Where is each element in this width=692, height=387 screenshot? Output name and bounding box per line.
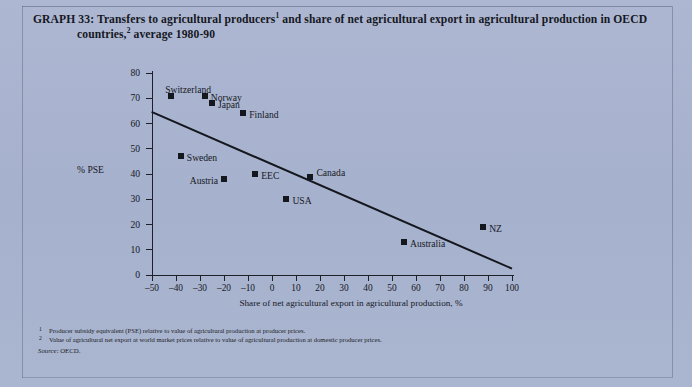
footnote-2-marker: 2 bbox=[39, 334, 42, 343]
source-label: Source bbox=[38, 347, 57, 354]
footnotes: 1 Producer subsidy equivalent (PSE) rela… bbox=[38, 326, 638, 355]
x-tick bbox=[152, 275, 153, 281]
x-tick bbox=[368, 275, 369, 281]
y-tick-label: 10 bbox=[110, 244, 140, 255]
source-value: : OECD. bbox=[57, 347, 81, 354]
x-tick bbox=[392, 275, 393, 281]
data-point bbox=[178, 153, 184, 159]
x-tick bbox=[416, 275, 417, 281]
data-point-label: Japan bbox=[218, 99, 240, 110]
data-point bbox=[240, 110, 246, 116]
data-point bbox=[209, 100, 215, 106]
data-point bbox=[283, 196, 289, 202]
y-tick-label-text: 0 bbox=[112, 269, 140, 280]
data-point-label: Australia bbox=[410, 238, 445, 249]
data-point bbox=[221, 176, 227, 182]
footnote-1-text: Producer subsidy equivalent (PSE) relati… bbox=[49, 327, 305, 334]
x-tick bbox=[440, 275, 441, 281]
graph-page: GRAPH 33: Transfers to agricultural prod… bbox=[0, 0, 692, 387]
footnote-1-marker: 1 bbox=[39, 325, 42, 334]
data-point-label: EEC bbox=[261, 170, 279, 181]
data-point-label: NZ bbox=[489, 223, 502, 234]
y-tick-label: 20 bbox=[110, 219, 140, 230]
data-point bbox=[202, 93, 208, 99]
y-tick-label: 0 bbox=[110, 269, 140, 280]
y-tick-label-text: 70 bbox=[112, 92, 140, 103]
x-axis-title: Share of net agricultural export in agri… bbox=[0, 298, 692, 308]
y-tick-label-text: 20 bbox=[112, 219, 140, 230]
scatter-chart: 01020304050607080 –50–40–30–20–100102030… bbox=[0, 0, 692, 320]
y-tick-label-text: 80 bbox=[112, 67, 140, 78]
x-tick bbox=[512, 275, 513, 281]
y-tick bbox=[146, 148, 153, 149]
x-tick bbox=[488, 275, 489, 281]
y-tick bbox=[146, 249, 153, 250]
data-point-label: Austria bbox=[0, 175, 218, 186]
x-tick bbox=[224, 275, 225, 281]
x-axis-line bbox=[150, 275, 514, 276]
trendline bbox=[151, 111, 512, 269]
y-tick bbox=[146, 98, 153, 99]
data-point bbox=[252, 171, 258, 177]
data-point-label: Sweden bbox=[187, 152, 217, 163]
x-axis-title-text: Share of net agricultural export in agri… bbox=[229, 298, 462, 308]
y-tick-label: 70 bbox=[110, 92, 140, 103]
data-point bbox=[480, 224, 486, 230]
x-tick bbox=[248, 275, 249, 281]
y-tick-label-text: 10 bbox=[112, 244, 140, 255]
y-tick-label-text: 30 bbox=[112, 193, 140, 204]
x-tick bbox=[272, 275, 273, 281]
footnote-2-text: Value of agricultural net export at worl… bbox=[49, 336, 382, 343]
y-tick-label-text: 50 bbox=[112, 143, 140, 154]
x-tick bbox=[344, 275, 345, 281]
x-tick-label: 100 bbox=[495, 283, 529, 293]
x-tick bbox=[464, 275, 465, 281]
y-axis-title: % PSE bbox=[77, 164, 104, 175]
data-point-label: Finland bbox=[249, 109, 278, 120]
x-tick bbox=[296, 275, 297, 281]
page-border-bottom bbox=[22, 377, 672, 378]
y-tick bbox=[146, 199, 153, 200]
y-tick-label: 30 bbox=[110, 193, 140, 204]
footnote-1: 1 Producer subsidy equivalent (PSE) rela… bbox=[38, 326, 638, 335]
data-point-label: Canada bbox=[316, 167, 345, 178]
y-tick-label-text: 60 bbox=[112, 118, 140, 129]
data-point bbox=[401, 239, 407, 245]
footnote-2: 2 Value of agricultural net export at wo… bbox=[38, 335, 638, 344]
source-line: Source: OECD. bbox=[38, 346, 638, 355]
data-point-label: USA bbox=[292, 195, 311, 206]
x-tick bbox=[320, 275, 321, 281]
x-tick bbox=[176, 275, 177, 281]
y-tick-label: 60 bbox=[110, 118, 140, 129]
x-tick bbox=[200, 275, 201, 281]
y-tick bbox=[146, 224, 153, 225]
y-tick-label: 50 bbox=[110, 143, 140, 154]
y-tick-label: 80 bbox=[110, 67, 140, 78]
y-tick bbox=[146, 73, 153, 74]
y-tick bbox=[146, 123, 153, 124]
